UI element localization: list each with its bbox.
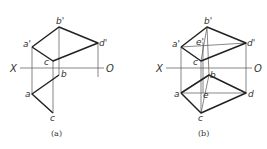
label-d-prime: d' bbox=[247, 38, 255, 48]
label-a: a bbox=[174, 89, 180, 99]
label-a-prime: a' bbox=[23, 39, 31, 49]
label-a-prime: a' bbox=[172, 39, 180, 49]
front-view-a bbox=[32, 27, 98, 61]
label-a: a bbox=[25, 89, 31, 99]
top-view-b bbox=[181, 75, 246, 113]
label-d-prime: d' bbox=[99, 38, 107, 48]
label-c: c bbox=[198, 113, 203, 123]
axis-label-x: X bbox=[9, 63, 18, 74]
label-e: e bbox=[203, 90, 209, 100]
label-c-prime: c bbox=[44, 57, 49, 67]
axis-label-o: O bbox=[106, 63, 114, 74]
figure-a: X O b' a' d' c b a c (a) bbox=[9, 16, 114, 138]
projection-diagrams: X O b' a' d' c b a c (a) X O b' a' d' e'… bbox=[0, 0, 267, 149]
front-view-b bbox=[181, 27, 246, 61]
label-b: b bbox=[61, 69, 67, 79]
label-d: d bbox=[248, 89, 254, 99]
figure-b: X O b' a' d' e' c b a d e c (b) bbox=[155, 16, 262, 138]
label-e-prime: e' bbox=[196, 37, 204, 47]
caption-b: (b) bbox=[198, 129, 209, 138]
label-c-prime: c bbox=[193, 57, 198, 67]
axis-label-o: O bbox=[254, 63, 262, 74]
caption-a: (a) bbox=[51, 129, 62, 138]
axis-label-x: X bbox=[155, 63, 164, 74]
label-c: c bbox=[50, 113, 55, 123]
label-b-prime: b' bbox=[204, 16, 212, 26]
top-view-a bbox=[32, 75, 59, 113]
label-b-prime: b' bbox=[56, 16, 64, 26]
label-b: b bbox=[210, 70, 216, 80]
